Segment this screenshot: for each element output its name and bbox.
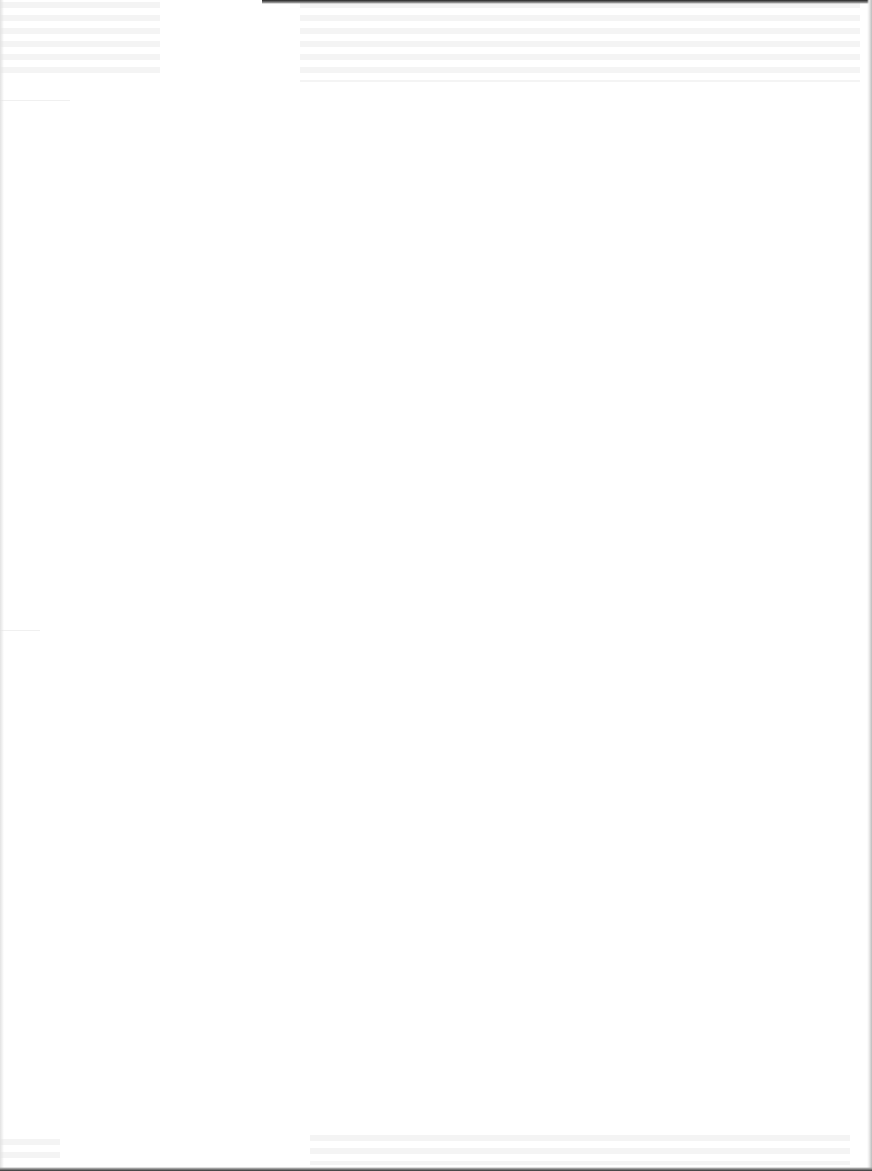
scan-border-top: [262, 0, 872, 4]
bleed-through-text-top-left: [0, 2, 160, 78]
faint-rule-mark: [0, 630, 40, 631]
bleed-through-text-bottom-left: [0, 1139, 60, 1165]
faint-rule-mark: [0, 100, 70, 101]
bleed-through-text-bottom-right: [310, 1135, 850, 1165]
scan-border-left: [0, 0, 4, 1171]
scan-border-right: [867, 0, 872, 1171]
bleed-through-text-top-right: [300, 2, 860, 82]
blank-scanned-page: [0, 0, 872, 1171]
scan-border-bottom: [0, 1167, 872, 1171]
